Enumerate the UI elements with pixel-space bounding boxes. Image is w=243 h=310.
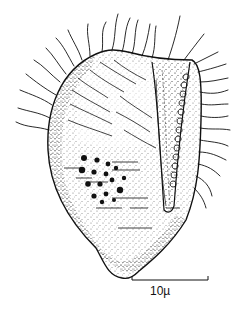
scale-bar-label: 10µ bbox=[150, 284, 170, 298]
cell-body-stipple bbox=[0, 0, 243, 310]
scale-bar bbox=[132, 276, 208, 280]
organism-illustration bbox=[0, 0, 243, 310]
